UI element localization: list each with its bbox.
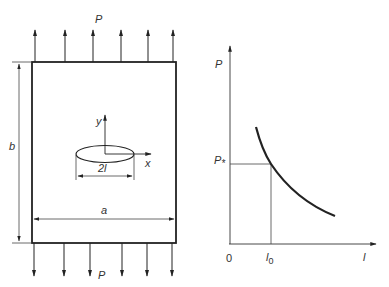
local-x-label: x	[144, 157, 151, 169]
graph-y-label: P	[215, 58, 223, 70]
load-curve	[256, 127, 335, 216]
crack-length-marker-label: l0	[266, 251, 273, 266]
width-label: a	[101, 204, 107, 216]
local-axes	[105, 115, 151, 154]
crack-length-label: 2l	[97, 162, 107, 174]
plate-diagram: P P b a y x	[8, 13, 176, 281]
load-vs-crack-graph: P l 0 P* l0	[214, 46, 376, 266]
figure-canvas: P P b a y x	[0, 0, 389, 287]
bottom-load-label: P	[98, 269, 106, 281]
local-y-label: y	[95, 115, 103, 127]
graph-x-label: l	[363, 251, 366, 263]
graph-origin-label: 0	[226, 252, 232, 264]
height-label: b	[9, 140, 15, 152]
critical-load-label: P*	[214, 154, 226, 169]
top-load-label: P	[95, 13, 103, 25]
top-load-arrows	[35, 30, 173, 62]
